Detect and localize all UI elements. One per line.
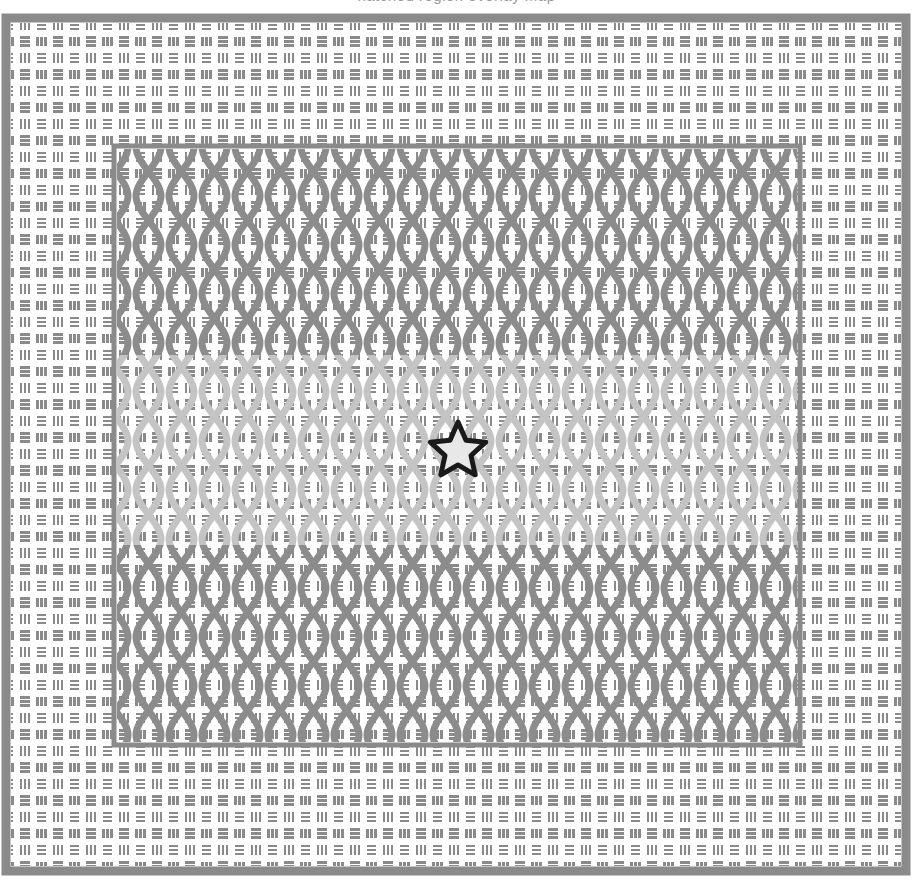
pattern-figure — [0, 0, 913, 883]
figure-canvas: hatched region overlay map — [0, 0, 913, 883]
